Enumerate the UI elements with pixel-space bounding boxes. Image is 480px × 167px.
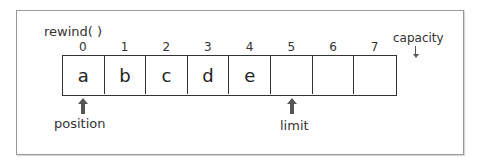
index-label: 4 bbox=[229, 40, 271, 54]
index-label: 5 bbox=[270, 40, 312, 54]
index-label: 0 bbox=[62, 40, 104, 54]
position-label: position bbox=[54, 116, 106, 131]
index-labels: 0 1 2 3 4 5 6 7 bbox=[62, 40, 396, 54]
limit-label: limit bbox=[280, 118, 309, 133]
capacity-label: capacity bbox=[393, 31, 444, 45]
buffer-cell: e bbox=[229, 56, 271, 94]
buffer-cell: c bbox=[146, 56, 188, 94]
buffer-cell: b bbox=[105, 56, 147, 94]
buffer-cell bbox=[354, 56, 396, 94]
index-label: 2 bbox=[145, 40, 187, 54]
buffer-cell bbox=[271, 56, 313, 94]
buffer-cell bbox=[313, 56, 355, 94]
position-up-arrow-icon bbox=[78, 98, 88, 114]
capacity-down-arrow-icon bbox=[415, 46, 416, 55]
diagram-title: rewind( ) bbox=[44, 24, 102, 39]
index-label: 7 bbox=[354, 40, 396, 54]
index-label: 1 bbox=[104, 40, 146, 54]
buffer-cells: a b c d e bbox=[62, 55, 397, 96]
buffer-cell: d bbox=[188, 56, 230, 94]
buffer-cell: a bbox=[63, 56, 105, 94]
limit-up-arrow-icon bbox=[287, 98, 297, 114]
index-label: 3 bbox=[187, 40, 229, 54]
index-label: 6 bbox=[312, 40, 354, 54]
